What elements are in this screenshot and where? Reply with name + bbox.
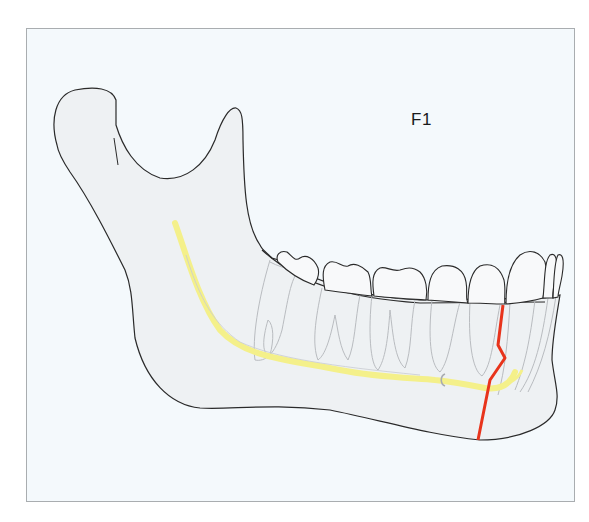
tooth-molar-2 bbox=[323, 262, 372, 296]
mandible-diagram bbox=[0, 0, 589, 522]
figure-label: F1 bbox=[411, 110, 432, 130]
tooth-premolar-1 bbox=[468, 265, 505, 304]
tooth-canine bbox=[506, 251, 546, 304]
tooth-molar-1 bbox=[373, 268, 427, 300]
tooth-premolar-2 bbox=[428, 266, 468, 303]
